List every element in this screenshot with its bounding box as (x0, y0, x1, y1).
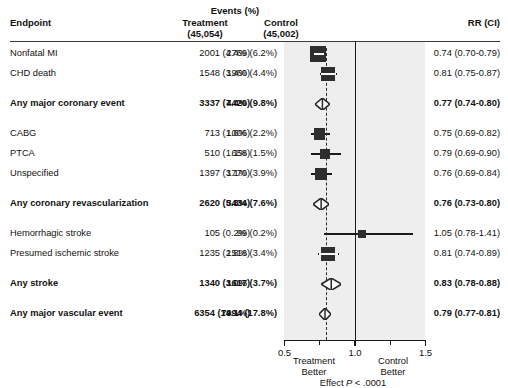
row-endpoint-label: Any coronary revascularization (10, 198, 148, 209)
row-control-events: 1518 (3.4%) (205, 248, 277, 259)
header-endpoint: Endpoint (10, 17, 51, 28)
x-axis-tick-minor (390, 340, 391, 345)
caption-treatment-better-line2: Better (279, 367, 349, 378)
row-rr-ci-value: 0.74 (0.70-0.79) (378, 48, 500, 59)
pooled-effect-dashed-line (326, 48, 327, 340)
confidence-interval-line-inner (314, 53, 325, 55)
row-control-events: 1770 (3.9%) (205, 168, 277, 179)
caption-control-better-line1: Control (358, 356, 428, 367)
row-rr-ci-value: 0.81 (0.74-0.89) (378, 248, 500, 259)
forest-plot-figure: Endpoint Events (%) Treatment (45,054) C… (0, 0, 508, 388)
effect-prefix: Effect (320, 378, 344, 388)
pooled-estimate-diamond-marker (321, 278, 342, 290)
confidence-interval-line (324, 233, 413, 234)
header-control-n: (45,002) (236, 28, 326, 39)
effect-suffix: < .0001 (355, 378, 386, 388)
reference-line-1 (355, 41, 356, 340)
row-rr-ci-value: 0.77 (0.74-0.80) (378, 98, 500, 109)
row-endpoint-label: Any major vascular event (10, 308, 123, 319)
effect-p-symbol: P (346, 378, 352, 388)
row-endpoint-label: Presumed ischemic stroke (10, 248, 119, 259)
header-rr-ci: RR (CI) (378, 17, 500, 28)
row-rr-ci-value: 0.83 (0.78-0.88) (378, 278, 500, 289)
row-endpoint-label: Unspecified (10, 168, 59, 179)
pooled-estimate-diamond-marker (319, 308, 331, 320)
row-endpoint-label: Any stroke (10, 278, 58, 289)
row-rr-ci-value: 0.76 (0.73-0.80) (378, 198, 500, 209)
row-endpoint-label: PTCA (10, 148, 35, 159)
caption-effect-p-value: Effect P < .0001 (293, 378, 413, 388)
point-estimate-square-marker (320, 149, 330, 159)
pooled-estimate-diamond-marker (313, 198, 329, 210)
row-control-events: 658 (1.5%) (205, 148, 277, 159)
row-control-events: 1617 (3.7%) (205, 278, 277, 289)
caption-control-better-line2: Better (358, 367, 428, 378)
x-axis-tick-minor (319, 340, 320, 345)
row-endpoint-label: CABG (10, 128, 36, 139)
row-rr-ci-value: 0.76 (0.69-0.84) (378, 168, 500, 179)
row-control-events: 1006 (2.2%) (205, 128, 277, 139)
row-rr-ci-value: 0.79 (0.77-0.81) (378, 308, 500, 319)
row-control-events: 2769 (6.2%) (205, 48, 277, 59)
row-control-events: 99 (0.2%) (205, 228, 277, 239)
point-estimate-square-marker (314, 128, 325, 139)
x-axis-tick-major (284, 340, 285, 346)
point-estimate-square-marker (358, 230, 366, 238)
row-control-events: 1960 (4.4%) (205, 68, 277, 79)
x-axis-tick-major (354, 340, 355, 346)
row-endpoint-label: CHD death (10, 68, 56, 79)
row-rr-ci-value: 0.81 (0.75-0.87) (378, 68, 500, 79)
confidence-interval-line-inner (321, 73, 336, 75)
header-events-group: Events (%) (160, 5, 310, 16)
pooled-estimate-diamond-marker (315, 98, 330, 110)
header-control: Control (236, 17, 326, 28)
header-divider-rule (10, 41, 500, 42)
row-control-events: 3434 (7.6%) (205, 198, 277, 209)
point-estimate-square-marker (315, 168, 327, 180)
row-endpoint-label: Any major coronary event (10, 98, 125, 109)
row-endpoint-label: Hemorrhagic stroke (10, 228, 91, 239)
row-endpoint-label: Nonfatal MI (10, 48, 58, 59)
caption-treatment-better-line1: Treatment (279, 356, 349, 367)
confidence-interval-line-inner (319, 253, 338, 255)
row-control-events: 7994 (17.8%) (205, 308, 277, 319)
x-axis-tick-major (425, 340, 426, 346)
row-rr-ci-value: 0.75 (0.69-0.82) (378, 128, 500, 139)
row-rr-ci-value: 0.79 (0.69-0.90) (378, 148, 500, 159)
row-control-events: 4420 (9.8%) (205, 98, 277, 109)
